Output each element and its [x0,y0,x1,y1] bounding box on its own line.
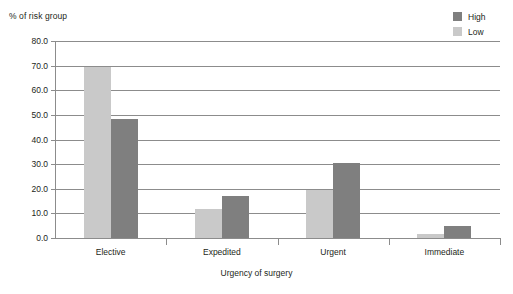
bar-group [278,41,389,238]
x-tick-label-immediate: Immediate [425,247,465,257]
legend-label-high: High [468,12,485,22]
legend-item-high[interactable]: High [453,10,505,23]
y-tick-label: 40.0 [31,135,48,145]
y-tick-mark [51,238,55,239]
y-tick-mark [51,189,55,190]
legend-swatch-low [453,27,462,36]
legend-swatch-high [453,12,462,21]
bar-high-immediate[interactable] [444,226,471,238]
y-tick-label: 30.0 [31,159,48,169]
legend-label-low: Low [468,27,484,37]
y-tick-mark [51,213,55,214]
y-tick-mark [51,41,55,42]
x-tick-mark [278,239,279,245]
y-tick-label: 0.0 [36,233,48,243]
y-axis-title: % of risk group [9,11,67,21]
y-tick-label: 60.0 [31,85,48,95]
x-axis-title: Urgency of surgery [0,268,513,278]
y-tick-label: 80.0 [31,36,48,46]
y-tick-mark [51,90,55,91]
bars-layer [55,41,500,238]
y-tick-mark [51,140,55,141]
x-tick-mark [166,239,167,245]
chart-legend: High Low [453,10,505,40]
bar-high-elective[interactable] [111,119,138,238]
bar-high-urgent[interactable] [333,163,360,238]
y-tick-mark [51,164,55,165]
bar-low-expedited[interactable] [195,209,222,238]
bar-group [389,41,500,238]
y-tick-mark [51,66,55,67]
y-tick-label: 20.0 [31,184,48,194]
x-tick-label-expedited: Expedited [203,247,241,257]
x-tick-mark [389,239,390,245]
bar-chart: % of risk group High Low ElectiveExpedit… [0,0,513,294]
bar-low-elective[interactable] [84,67,111,238]
y-tick-label: 50.0 [31,110,48,120]
bar-high-expedited[interactable] [222,196,249,238]
legend-item-low[interactable]: Low [453,25,505,38]
y-tick-label: 10.0 [31,208,48,218]
x-tick-label-elective: Elective [96,247,126,257]
y-tick-mark [51,115,55,116]
y-tick-label: 70.0 [31,61,48,71]
x-tick-label-urgent: Urgent [320,247,346,257]
bar-group [166,41,277,238]
bar-group [55,41,166,238]
x-tick-mark [500,239,501,245]
bar-low-urgent[interactable] [306,190,333,238]
